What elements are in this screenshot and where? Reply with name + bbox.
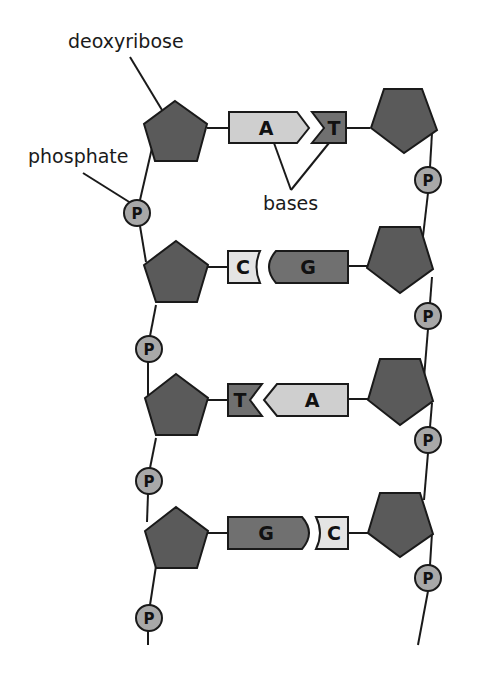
deoxyribose-label: deoxyribose [68,30,184,52]
base-pair-2: C G [228,251,348,283]
bases-label: bases [263,192,318,214]
base-g: G [269,251,348,283]
dna-diagram: P P P P P P P P A T C G [0,0,477,689]
base-pair-3: T A [228,384,348,416]
svg-text:G: G [258,522,274,544]
deoxyribose-icon [145,507,208,568]
base-t: T [228,384,262,416]
phosphate-icon: P [136,605,162,631]
base-c: C [316,517,348,549]
svg-text:P: P [144,341,155,359]
phosphate-icon: P [124,200,150,226]
deoxyribose-icon [145,374,208,435]
base-a: A [264,384,348,416]
base-t: T [312,112,346,143]
phosphate-icon: P [415,303,441,329]
base-pair-1: A T [229,112,346,143]
phosphate-icon: P [136,468,162,494]
base-g: G [228,517,309,549]
svg-text:P: P [423,432,434,450]
sugar-base-connectors [207,128,370,533]
base-c: C [228,251,260,283]
left-sugars [144,101,208,568]
svg-text:T: T [234,389,247,411]
base-a: A [229,112,309,143]
svg-text:A: A [305,389,320,411]
deoxyribose-icon [144,101,207,161]
svg-text:P: P [423,308,434,326]
deoxyribose-icon [367,227,433,293]
svg-text:A: A [259,117,274,139]
deoxyribose-icon [368,493,433,557]
svg-text:P: P [423,570,434,588]
svg-text:G: G [300,256,316,278]
deoxyribose-icon [371,89,437,153]
deoxyribose-icon [368,359,433,425]
phosphate-icon: P [415,427,441,453]
svg-text:C: C [236,256,250,278]
phosphate-label: phosphate [28,145,129,167]
base-pair-4: G C [228,517,348,549]
deoxyribose-icon [144,241,208,302]
svg-text:C: C [327,522,341,544]
svg-text:P: P [144,610,155,628]
svg-text:T: T [328,117,341,139]
svg-text:P: P [423,172,434,190]
phosphate-icon: P [415,565,441,591]
phosphate-icon: P [415,167,441,193]
phosphate-icon: P [136,336,162,362]
svg-text:P: P [132,205,143,223]
svg-text:P: P [144,473,155,491]
